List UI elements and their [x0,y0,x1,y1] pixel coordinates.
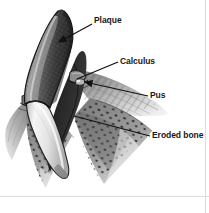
label-pus: Pus [150,91,165,100]
label-plaque: Plaque [94,16,122,25]
label-calculus: Calculus [120,57,155,66]
illustration-canvas [0,0,209,213]
label-eroded-bone: Eroded bone [152,131,203,140]
dental-illustration-figure: Plaque Calculus Pus Eroded bone [0,0,209,213]
